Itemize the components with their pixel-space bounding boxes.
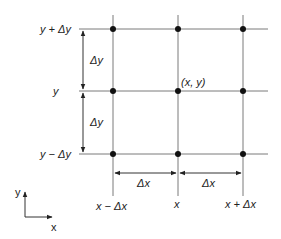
node bbox=[240, 88, 246, 94]
dy-upper-label: Δy bbox=[89, 54, 104, 66]
row-label-y-minus-dy: y − Δy bbox=[39, 148, 72, 160]
dx-left-label: Δx bbox=[136, 177, 150, 189]
node bbox=[175, 26, 181, 32]
grid-diagram-svg: y + Δy y y − Δy Δy Δy Δx Δx x − Δx x x +… bbox=[0, 0, 281, 239]
x-axis-label: x bbox=[51, 221, 57, 233]
center-node bbox=[175, 88, 181, 94]
node bbox=[110, 151, 116, 157]
row-label-y-plus-dy: y + Δy bbox=[39, 23, 72, 35]
col-label-x-plus-dx: x + Δx bbox=[224, 198, 256, 210]
horizontal-grid-lines bbox=[79, 29, 268, 154]
center-node-label: (x, y) bbox=[181, 76, 206, 88]
node bbox=[175, 151, 181, 157]
row-label-y: y bbox=[52, 85, 60, 97]
col-label-x-minus-dx: x − Δx bbox=[95, 200, 127, 212]
dx-right-label: Δx bbox=[201, 177, 215, 189]
vertical-grid-lines bbox=[113, 15, 243, 196]
node bbox=[240, 26, 246, 32]
node bbox=[110, 88, 116, 94]
axes-icon bbox=[25, 192, 52, 217]
node bbox=[110, 26, 116, 32]
col-label-x: x bbox=[173, 198, 180, 210]
node bbox=[240, 151, 246, 157]
grid-diagram: y + Δy y y − Δy Δy Δy Δx Δx x − Δx x x +… bbox=[0, 0, 281, 239]
y-axis-label: y bbox=[15, 186, 21, 198]
dy-lower-label: Δy bbox=[89, 116, 104, 128]
